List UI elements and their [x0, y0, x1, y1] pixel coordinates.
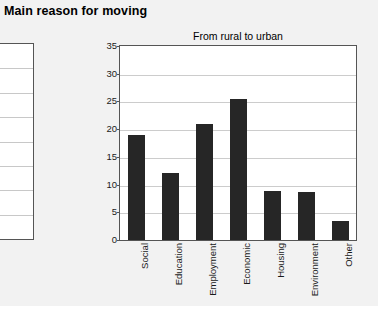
- chart-bars: [119, 45, 357, 241]
- gridline: [0, 190, 33, 191]
- x-axis: SocialEducationEmploymentEconomicHousing…: [119, 243, 357, 305]
- x-axis-tick-label: Education: [174, 243, 184, 285]
- bar: [128, 135, 145, 240]
- gridline: [0, 68, 33, 69]
- chart-title: From rural to urban: [118, 30, 358, 42]
- gridline: [0, 166, 33, 167]
- y-axis-tick-label: 20: [99, 124, 117, 134]
- left-partial-chart: [0, 43, 34, 242]
- x-axis-tick-label: Housing: [276, 243, 286, 278]
- bar: [230, 99, 247, 240]
- bar: [264, 191, 281, 240]
- y-axis-tick-label: 0: [99, 235, 117, 245]
- gridline: [0, 215, 33, 216]
- left-partial-chart-plot: [0, 43, 34, 240]
- y-axis-tick-label: 25: [99, 96, 117, 106]
- bar: [332, 221, 349, 240]
- x-axis-tick-label: Environment: [310, 243, 320, 296]
- bar: [298, 192, 315, 240]
- x-axis-tick-label: Economic: [242, 243, 252, 285]
- y-axis-tick-label: 35: [99, 41, 117, 51]
- bar: [196, 124, 213, 240]
- x-axis-tick-label: Social: [140, 243, 150, 269]
- y-axis: 05101520253035: [97, 45, 117, 241]
- y-axis-tick-label: 10: [99, 180, 117, 190]
- gridline: [0, 117, 33, 118]
- y-axis-tick-label: 5: [99, 207, 117, 217]
- gridline: [0, 142, 33, 143]
- gridline: [0, 93, 33, 94]
- y-axis-tick-label: 15: [99, 152, 117, 162]
- y-axis-tick-label: 30: [99, 69, 117, 79]
- page-title: Main reason for moving: [4, 4, 147, 18]
- x-axis-tick-label: Other: [344, 243, 354, 267]
- bar: [162, 173, 179, 240]
- x-axis-tick-label: Employment: [208, 243, 218, 296]
